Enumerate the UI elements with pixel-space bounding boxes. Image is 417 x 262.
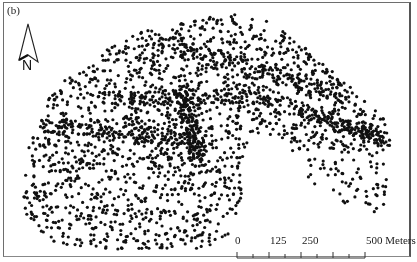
scale-label-500: 500 Meters: [366, 234, 416, 246]
scale-bar: 0 125 250 500 Meters: [230, 234, 410, 258]
scale-label-125: 125: [270, 234, 287, 246]
point-distribution-layer: [0, 0, 417, 262]
scale-bar-ticks: [236, 250, 386, 260]
scale-label-250: 250: [302, 234, 319, 246]
scale-label-0: 0: [235, 234, 241, 246]
north-label: N: [22, 57, 32, 73]
panel-label: (b): [7, 4, 20, 16]
